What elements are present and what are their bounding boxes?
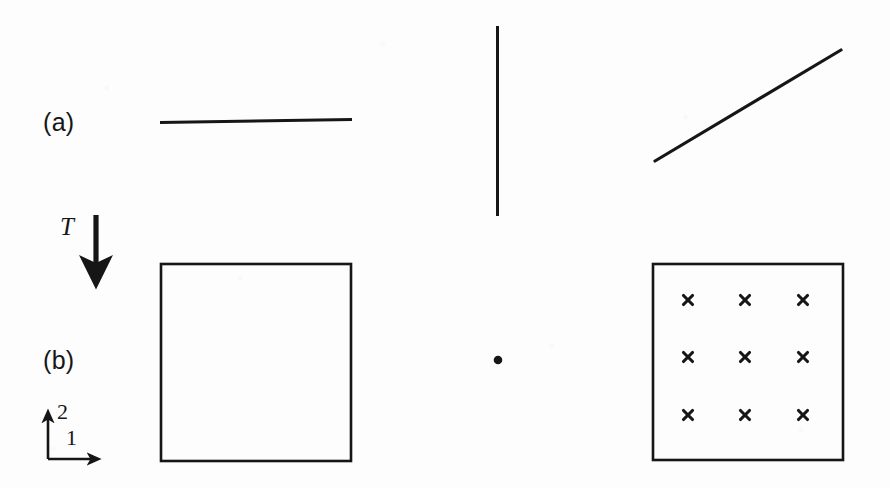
axis-1-label: 1 — [66, 425, 77, 451]
row-label-a: (a) — [43, 108, 74, 137]
row-a-shapes — [160, 26, 841, 216]
diagonal-line — [655, 50, 841, 161]
figure-canvas: (a) (b) T 2 1 — [0, 0, 890, 488]
transformation-map-label: T — [60, 213, 74, 241]
element-square-plain — [161, 264, 351, 461]
gauss-point — [741, 411, 750, 420]
gauss-point — [741, 296, 750, 305]
row-b-shapes — [161, 264, 843, 461]
gauss-point — [741, 353, 750, 362]
horizontal-line — [160, 120, 352, 123]
gauss-point-grid — [684, 296, 808, 420]
gauss-point — [799, 411, 808, 420]
gauss-point — [684, 296, 693, 305]
row-label-b: (b) — [43, 346, 74, 375]
center-point — [494, 356, 503, 365]
axis-2-label: 2 — [57, 399, 68, 425]
gauss-point — [684, 411, 693, 420]
gauss-point — [684, 353, 693, 362]
gauss-point — [799, 353, 808, 362]
figure-vector-layer — [0, 0, 890, 488]
gauss-point — [799, 296, 808, 305]
